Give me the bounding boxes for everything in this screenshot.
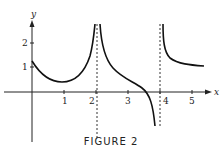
x-tick-label-4: 4 [163,96,169,106]
x-axis-label: x [214,87,219,97]
function-curves [32,24,204,126]
axes [4,24,208,142]
curve-branch-1 [32,24,95,82]
y-tick-label-1: 1 [22,62,28,72]
y-axis-arrow-icon [30,20,35,27]
y-axis-label: y [30,9,37,19]
x-tick-label-2: 2 [89,96,95,106]
y-tick-label-2: 2 [22,38,28,48]
curve-branch-2 [100,24,155,126]
x-axis-arrow-icon [205,90,212,95]
vertical-asymptotes [97,24,160,138]
curve-branch-3 [163,24,204,66]
x-tick-label-1: 1 [62,96,68,106]
figure-caption: FIGURE 2 [0,136,222,147]
x-tick-label-5: 5 [189,96,195,106]
x-tick-label-3: 3 [125,96,131,106]
